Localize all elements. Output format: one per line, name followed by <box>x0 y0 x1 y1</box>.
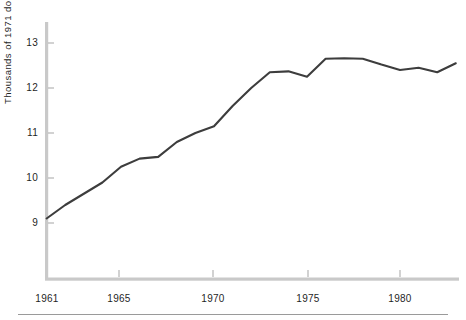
x-tick-label-1980: 1980 <box>380 293 420 304</box>
x-axis-line <box>45 278 459 281</box>
y-tick-label-10: 10 <box>16 172 38 183</box>
y-tick-marks <box>48 43 54 223</box>
y-tick-label-12: 12 <box>16 82 38 93</box>
footer-divider <box>18 314 448 315</box>
y-axis-title: Thousands of 1971 dollars <box>2 0 13 104</box>
x-tick-label-1965: 1965 <box>99 293 139 304</box>
y-tick-label-9: 9 <box>16 217 38 228</box>
y-axis-line <box>45 22 48 280</box>
line-chart-plot <box>0 0 466 320</box>
x-tick-label-1975: 1975 <box>288 293 328 304</box>
x-tick-label-1961: 1961 <box>27 293 67 304</box>
y-tick-label-13: 13 <box>16 37 38 48</box>
y-tick-label-11: 11 <box>16 127 38 138</box>
data-series-line <box>47 58 456 218</box>
chart-figure: Thousands of 1971 dollars 13 12 11 10 9 … <box>0 0 466 320</box>
x-tick-label-1970: 1970 <box>193 293 233 304</box>
x-tick-marks <box>119 270 400 277</box>
